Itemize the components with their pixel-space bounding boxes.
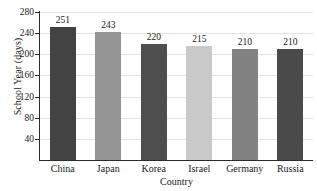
- bar-chart: School Year (days) 2802402001601208040 2…: [0, 0, 317, 191]
- gridline: [40, 139, 313, 140]
- gridline: [40, 12, 313, 13]
- bar[interactable]: [95, 32, 121, 160]
- bar[interactable]: [232, 49, 258, 160]
- gridline: [40, 54, 313, 55]
- gridline: [40, 118, 313, 119]
- y-axis-tick-label: 200: [4, 50, 34, 60]
- y-axis-tick-label: 40: [4, 135, 34, 145]
- gridline: [40, 97, 313, 98]
- bar-value-label: 215: [176, 34, 222, 44]
- bar-value-label: 220: [131, 32, 177, 42]
- plot-area: 251243220215210210: [40, 12, 313, 160]
- x-axis-category-label: Russia: [260, 163, 317, 175]
- y-axis-tick-label: 240: [4, 29, 34, 39]
- x-axis-title: Country: [40, 176, 313, 188]
- bar[interactable]: [277, 49, 303, 160]
- y-axis-tick-label: 120: [4, 93, 34, 103]
- x-axis-line: [39, 160, 313, 161]
- bar[interactable]: [141, 44, 167, 160]
- bar-value-label: 210: [222, 37, 268, 47]
- y-axis-tick-label: 280: [4, 8, 34, 18]
- bar-value-label: 251: [40, 15, 86, 25]
- bar-value-label: 243: [85, 20, 131, 30]
- gridline: [40, 75, 313, 76]
- bar[interactable]: [50, 27, 76, 160]
- bar-value-label: 210: [267, 37, 313, 47]
- y-axis-tick-label: 80: [4, 114, 34, 124]
- bar[interactable]: [186, 46, 212, 160]
- y-axis-tick-label: 160: [4, 71, 34, 81]
